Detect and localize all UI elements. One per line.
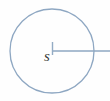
- figure-canvas: [0, 0, 110, 101]
- geometry-figure: s: [0, 0, 110, 101]
- center-point-label: s: [44, 49, 50, 64]
